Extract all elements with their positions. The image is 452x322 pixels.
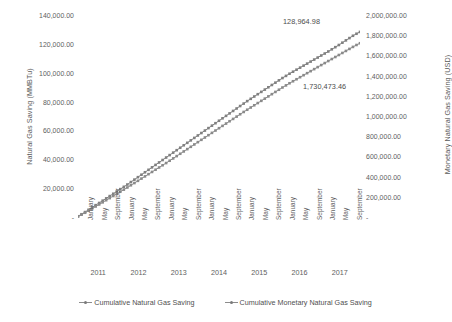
series-marker <box>140 177 143 180</box>
series-marker <box>235 107 238 110</box>
series-marker <box>313 58 316 61</box>
x-axis-month-tick: January <box>168 197 175 220</box>
series-marker <box>352 46 355 49</box>
series-marker <box>359 42 360 45</box>
series-marker <box>133 182 136 185</box>
series-marker <box>168 159 171 162</box>
series-marker <box>306 62 309 65</box>
series-marker <box>295 78 298 81</box>
y-axis-right-tick: 600,000.00 <box>366 153 436 160</box>
x-axis-month-tick: May <box>262 208 269 220</box>
series-marker <box>225 122 228 125</box>
y-axis-right-tick: 800,000.00 <box>366 133 436 140</box>
series-marker <box>334 46 337 49</box>
series-marker <box>204 136 207 139</box>
legend-label-money: Cumulative Monetary Natural Gas Saving <box>240 298 372 307</box>
series-marker <box>285 75 288 78</box>
x-axis-year-tick: 2016 <box>279 268 319 277</box>
legend-marker-line-icon <box>225 299 238 306</box>
series-marker <box>239 113 242 116</box>
legend-label-gas: Cumulative Natural Gas Saving <box>94 298 194 307</box>
series-marker <box>179 146 182 149</box>
x-axis-month-tick: January <box>128 197 135 220</box>
y-axis-right-tick: 1,000,000.00 <box>366 113 436 120</box>
series-marker <box>341 52 344 55</box>
series-marker <box>151 166 154 169</box>
series-marker <box>165 162 168 165</box>
series-marker <box>84 211 87 214</box>
series-marker <box>133 178 136 181</box>
series-marker <box>190 139 193 142</box>
y-axis-right-tick: 2,000,000.00 <box>366 12 436 19</box>
series-marker <box>108 197 111 200</box>
series-marker <box>232 110 235 113</box>
y-axis-left-ticks: -20,000.0040,000.0060,000.0080,000.00100… <box>8 0 74 322</box>
series-marker <box>144 171 147 174</box>
series-marker <box>123 186 126 189</box>
series-marker <box>345 39 348 42</box>
x-axis-year-tick: 2017 <box>320 268 360 277</box>
series-marker <box>341 41 344 44</box>
series-marker <box>309 60 312 63</box>
series-marker <box>172 151 175 154</box>
series-marker <box>334 56 337 59</box>
x-axis-month-tick: September <box>275 188 282 220</box>
series-marker <box>278 88 281 91</box>
y-axis-right-title: Monetary Natural Gas Saving (USD) <box>443 30 452 200</box>
y-axis-left-tick: 60,000.00 <box>10 127 74 134</box>
series-marker <box>214 129 217 132</box>
x-axis-month-tick: September <box>154 188 161 220</box>
series-marker <box>221 125 224 128</box>
series-marker <box>320 54 323 57</box>
legend-item-gas[interactable]: Cumulative Natural Gas Saving <box>79 298 194 307</box>
x-axis-year-tick: 2015 <box>239 268 279 277</box>
y-axis-right-tick: 1,400,000.00 <box>366 73 436 80</box>
series-marker <box>348 48 351 51</box>
series-marker <box>211 132 214 135</box>
series-marker <box>200 132 203 135</box>
y-axis-left-tick: 20,000.00 <box>10 185 74 192</box>
series-marker <box>256 93 259 96</box>
y-axis-left-tick: - <box>10 214 74 221</box>
series-marker <box>316 56 319 59</box>
series-marker <box>331 58 334 61</box>
series-marker <box>186 142 189 145</box>
series-marker <box>225 115 228 118</box>
series-marker <box>182 150 185 153</box>
gas-end-value-label: 128,964.98 <box>283 17 320 26</box>
series-marker <box>249 106 252 109</box>
series-marker <box>338 44 341 47</box>
series-marker <box>306 72 309 75</box>
x-axis-year-tick: 2014 <box>199 268 239 277</box>
series-marker <box>126 186 129 189</box>
y-axis-left-tick: 40,000.00 <box>10 156 74 163</box>
x-axis-month-tick: January <box>87 197 94 220</box>
series-marker <box>78 215 79 218</box>
x-axis-month-tick: May <box>222 208 229 220</box>
x-axis-year-tick: 2013 <box>159 268 199 277</box>
series-marker <box>186 148 189 151</box>
series-marker <box>140 173 143 176</box>
x-axis-month-tick: January <box>289 197 296 220</box>
series-marker <box>295 68 298 71</box>
x-axis-month-tick: January <box>208 197 215 220</box>
series-marker <box>80 213 83 216</box>
series-marker <box>267 95 270 98</box>
x-axis-month-tick: September <box>356 188 363 220</box>
series-marker <box>249 98 252 101</box>
series-marker <box>165 156 168 159</box>
series-marker <box>323 52 326 55</box>
series-marker <box>232 118 235 121</box>
y-axis-right-tick: 400,000.00 <box>366 174 436 181</box>
series-marker <box>204 129 207 132</box>
series-marker <box>299 76 302 79</box>
x-axis-month-tick: September <box>235 188 242 220</box>
series-marker <box>352 34 355 37</box>
x-axis-month-tick: May <box>342 208 349 220</box>
series-marker <box>218 127 221 130</box>
legend-item-money[interactable]: Cumulative Monetary Natural Gas Saving <box>225 298 372 307</box>
x-axis-year-tick: 2012 <box>118 268 158 277</box>
y-axis-left-tick: 140,000.00 <box>10 12 74 19</box>
series-marker <box>302 74 305 77</box>
